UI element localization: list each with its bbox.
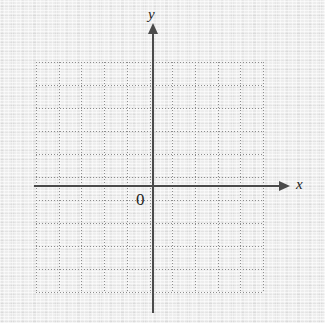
- grid-line-horizontal: [36, 177, 263, 178]
- x-axis-line: [34, 185, 279, 187]
- origin-label: 0: [136, 191, 145, 208]
- grid-line-horizontal: [36, 131, 263, 132]
- y-axis-label: y: [148, 7, 155, 22]
- y-axis-line: [152, 33, 154, 313]
- grid-line-horizontal: [36, 154, 263, 155]
- grid-line-horizontal: [36, 62, 263, 63]
- grid-line-horizontal: [36, 269, 263, 270]
- y-axis-arrow-icon: [148, 23, 158, 34]
- grid-area: [36, 62, 263, 292]
- x-axis-label: x: [296, 177, 303, 192]
- grid-line-horizontal: [36, 200, 263, 201]
- grid-line-horizontal: [36, 85, 263, 86]
- grid-line-horizontal: [36, 292, 263, 293]
- grid-line-horizontal: [36, 108, 263, 109]
- grid-line-horizontal: [36, 223, 263, 224]
- grid-line-vertical: [263, 62, 264, 292]
- grid-line-horizontal: [36, 246, 263, 247]
- x-axis-arrow-icon: [279, 181, 290, 191]
- coordinate-grid-figure: x y 0: [0, 0, 325, 323]
